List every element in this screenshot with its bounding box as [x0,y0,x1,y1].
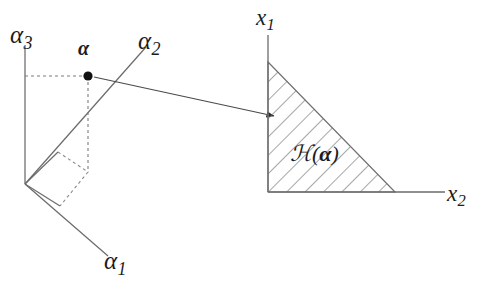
axis-label-alpha1-base: α [104,247,117,274]
dashed-base-parallelogram [58,152,88,206]
axis-label-alpha3: α3 [10,22,32,47]
axis-label-x1: x1 [256,6,275,29]
axis-label-x2-subscript: 2 [458,191,466,210]
axis-label-x1-subscript: 1 [267,15,275,34]
parameter-projection-lines [25,76,88,206]
axis-label-x2: x2 [447,182,466,205]
cone-region [268,62,395,192]
axis-label-alpha1: α1 [104,248,126,273]
axis-label-alpha1-subscript: 1 [117,259,126,279]
figure-canvas [0,0,484,299]
cone-region-label-close: ) [332,141,339,166]
axis-label-x1-base: x [256,5,266,30]
axis-label-x2-base: x [447,181,457,206]
axis-label-alpha2: α2 [138,28,160,53]
base-edge-upper [25,152,58,184]
axis-label-alpha3-base: α [10,21,23,48]
axis-alpha1 [25,184,108,256]
cone-region-label-script: ℋ [290,140,312,166]
alpha-point-label: α [78,38,89,58]
axis-label-alpha2-subscript: 2 [151,39,160,59]
alpha-point-marker [83,71,92,80]
base-edge-lower [25,184,60,206]
axis-label-alpha3-subscript: 3 [23,33,32,53]
figure-root: α3 α2 α1 α x1 x2 ℋ(α) [0,0,484,299]
axis-alpha2 [25,47,146,184]
base-parallelogram-solid-edges [25,152,60,206]
cone-region-label-arg: α [319,141,331,166]
axis-label-alpha2-base: α [138,27,151,54]
mapping-arrow [94,77,274,116]
cone-region-label: ℋ(α) [290,142,339,165]
